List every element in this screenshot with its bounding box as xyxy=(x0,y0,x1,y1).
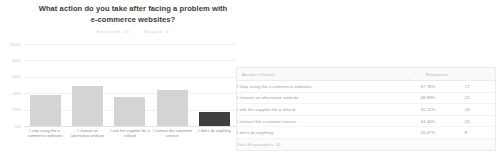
cell-response-percent: 44.44% xyxy=(420,115,464,127)
row-marker-icon xyxy=(241,121,245,122)
cell-response-count: 8 xyxy=(465,127,495,139)
gridline xyxy=(24,126,236,127)
row-marker-icon xyxy=(241,109,245,110)
cell-answer-choice: I contact the customer service xyxy=(237,115,420,127)
cell-response-percent: 37.78% xyxy=(420,81,464,93)
cell-response-count: 17 xyxy=(465,81,495,93)
skipped-count: Skipped: 0 xyxy=(143,29,169,34)
total-respondents: Total Respondents: 45 xyxy=(237,138,495,150)
table-row: I stop using the e-commerce websites37.7… xyxy=(237,81,495,93)
chart-title: What action do you take after facing a p… xyxy=(38,4,228,25)
y-axis-tick-label: 40% xyxy=(2,91,21,96)
row-marker-icon xyxy=(241,132,245,133)
table-row: I contact the customer service44.44%20 xyxy=(237,115,495,127)
cell-answer-choice: I choose an alternative website xyxy=(237,92,420,104)
bar-slot xyxy=(152,44,192,126)
chart-bar[interactable] xyxy=(157,90,188,126)
cell-response-count: 22 xyxy=(465,92,495,104)
answered-count: Answered: 45 xyxy=(97,29,130,34)
cell-response-percent: 35.22% xyxy=(420,104,464,116)
results-table: Answer Choices ▾ Responses ▾ I stop usin… xyxy=(237,68,495,150)
chart-plot-area: 100%80%60%40%20%0% xyxy=(24,44,236,126)
chart-x-axis-labels: I stop using the e-commerce websitesI ch… xyxy=(24,128,236,138)
table-row: I don't do anything16.67%8 xyxy=(237,127,495,139)
row-marker-icon xyxy=(241,97,245,98)
column-header-responses[interactable]: Responses xyxy=(420,68,464,81)
row-marker-icon xyxy=(241,86,245,87)
cell-response-percent: 16.67% xyxy=(420,127,464,139)
results-table-panel: Answer Choices ▾ Responses ▾ I stop usin… xyxy=(236,67,496,151)
cell-response-count: 16 xyxy=(465,104,495,116)
x-axis-tick-label: I ask the supplier for a refund xyxy=(110,128,150,138)
table-row: I choose an alternative website48.89%22 xyxy=(237,92,495,104)
bar-slot xyxy=(195,44,235,126)
table-footer-row: Total Respondents: 45 xyxy=(237,138,495,150)
cell-answer-choice: I stop using the e-commerce websites xyxy=(237,81,420,93)
chevron-down-icon[interactable]: ▾ xyxy=(414,72,416,76)
cell-answer-choice: I ask the supplier for a refund xyxy=(237,104,420,116)
y-axis-tick-label: 80% xyxy=(2,58,21,63)
x-axis-tick-label: I contact the customer service xyxy=(152,128,192,138)
x-axis-tick-label: I stop using the e-commerce websites xyxy=(25,128,65,138)
x-axis-tick-label: I don't do anything xyxy=(195,128,235,138)
chart-bar[interactable] xyxy=(199,112,230,126)
table-row: I ask the supplier for a refund35.22%16 xyxy=(237,104,495,116)
bar-slot xyxy=(25,44,65,126)
y-axis-tick-label: 0% xyxy=(2,124,21,129)
column-header-answer-choices[interactable]: Answer Choices ▾ xyxy=(237,68,420,81)
cell-response-count: 20 xyxy=(465,115,495,127)
y-axis-tick-label: 60% xyxy=(2,74,21,79)
y-axis-tick-label: 20% xyxy=(2,107,21,112)
chart-bar[interactable] xyxy=(72,86,103,126)
chart-bar[interactable] xyxy=(30,95,61,126)
table-header-row: Answer Choices ▾ Responses ▾ xyxy=(237,68,495,81)
y-axis-tick-label: 100% xyxy=(2,42,21,47)
cell-answer-choice: I don't do anything xyxy=(237,127,420,139)
bar-slot xyxy=(110,44,150,126)
chart-bars xyxy=(24,44,236,126)
bar-chart-panel: What action do you take after facing a p… xyxy=(0,0,240,160)
table-body: I stop using the e-commerce websites37.7… xyxy=(237,81,495,139)
column-header-count[interactable]: ▾ xyxy=(465,68,495,81)
x-axis-tick-label: I choose an alternative website xyxy=(68,128,108,138)
chevron-down-icon[interactable]: ▾ xyxy=(489,72,491,76)
cell-response-percent: 48.89% xyxy=(420,92,464,104)
bar-slot xyxy=(68,44,108,126)
chart-subtitle: Answered: 45 Skipped: 0 xyxy=(38,29,228,34)
chart-bar[interactable] xyxy=(114,97,145,126)
survey-results-page: What action do you take after facing a p… xyxy=(0,0,497,160)
